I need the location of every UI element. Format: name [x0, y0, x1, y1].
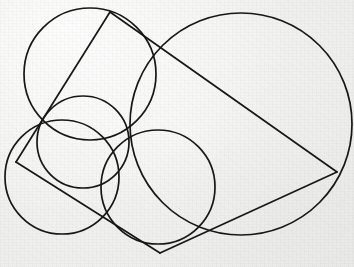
chord-right-to-bottom	[160, 172, 337, 253]
upper-left-circle	[24, 8, 156, 140]
geometry-figure-canvas	[0, 0, 354, 267]
geometry-figure-svg	[0, 0, 354, 267]
circles-group	[5, 8, 352, 244]
chord-bottom-to-left	[16, 162, 160, 253]
large-right-circle	[130, 13, 352, 235]
middle-lens-circle	[37, 96, 129, 188]
chord-top-to-right	[110, 12, 337, 172]
